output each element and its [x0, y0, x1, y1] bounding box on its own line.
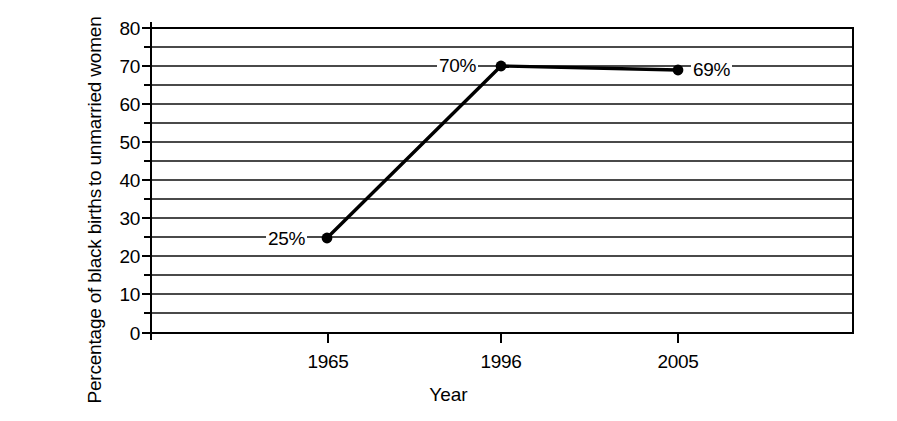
x-axis-title: Year: [429, 385, 467, 404]
x-tick-label-2005: 2005: [657, 352, 698, 371]
data-series-line: [327, 66, 678, 238]
x-tick-label-1965: 1965: [307, 352, 348, 371]
point-label-1996: 70%: [437, 56, 478, 75]
data-point-markers: [322, 61, 684, 244]
data-point-1965: [322, 233, 333, 244]
data-point-1996: [496, 61, 507, 72]
x-axis-title-wrap: Year: [0, 385, 897, 404]
point-label-1965: 25%: [266, 229, 307, 248]
x-axis-ticks: [328, 333, 678, 343]
gridlines: [151, 47, 853, 313]
line-chart: Percentage of black births to unmarried …: [0, 0, 897, 421]
data-point-2005: [673, 65, 684, 76]
x-tick-label-1996: 1996: [480, 352, 521, 371]
y-axis-ticks: [142, 28, 151, 333]
point-label-2005: 69%: [691, 60, 732, 79]
